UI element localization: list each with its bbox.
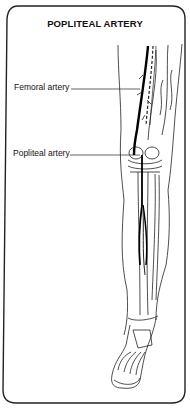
popliteal-artery-label: Popliteal artery [13, 148, 70, 158]
diagram-canvas [0, 0, 190, 409]
frame-border [3, 6, 185, 403]
femoral-artery-label: Femoral artery [14, 82, 69, 92]
leg-illustration [112, 44, 182, 388]
figure-title: POPLITEAL ARTERY [0, 18, 190, 29]
